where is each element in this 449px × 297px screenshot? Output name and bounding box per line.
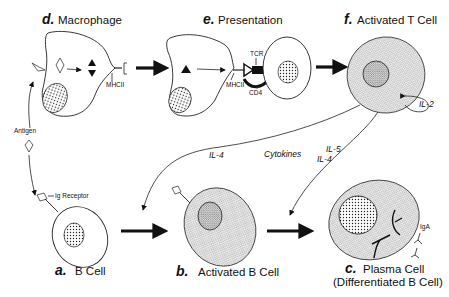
mhcii-receptor-icon xyxy=(124,63,127,74)
plasma-cell-nucleus xyxy=(339,196,377,234)
panel-label-activated-b-cell: Activated B Cell xyxy=(198,266,279,278)
diagram-canvas: d. Macrophage MHCII Antigen e. Presentat… xyxy=(0,0,449,297)
panel-label-presentation: Presentation xyxy=(218,14,283,26)
panel-b-cell: Ig Receptor a. B Cell xyxy=(37,192,118,278)
antigen-to-bcell-arrow xyxy=(29,155,35,195)
tcr-label: TCR xyxy=(250,50,264,57)
panel-label-plasma-cell: Plasma Cell xyxy=(363,263,424,275)
t-cell-nucleus xyxy=(278,61,298,83)
panel-letter-f: f. xyxy=(344,11,353,27)
antigen-outside-icon xyxy=(32,63,45,71)
mhcii-leader-e xyxy=(231,73,234,80)
activated-b-bound-antigen-icon xyxy=(172,186,181,194)
panel-macrophage: d. Macrophage MHCII Antigen xyxy=(14,11,127,195)
antigen-label: Antigen xyxy=(14,127,36,135)
ig-receptor-icon xyxy=(45,199,58,212)
il4-to-c-label: IL-4 xyxy=(317,154,332,164)
cd4-label: CD4 xyxy=(249,89,262,96)
panel-activated-b-cell: b. Activated B Cell xyxy=(171,176,279,279)
panel-letter-b: b. xyxy=(176,263,188,279)
tcr-mhc-complex-icon xyxy=(244,64,253,76)
panel-activated-t-cell: f. Activated T Cell IL-2 xyxy=(338,11,437,122)
antigen-to-macrophage-arrow xyxy=(29,82,33,128)
panel-letter-d: d. xyxy=(42,11,54,27)
ig-receptor-label: Ig Receptor xyxy=(55,192,89,200)
iga-label: IgA xyxy=(420,223,430,231)
il4-to-b-label: IL-4 xyxy=(209,150,224,160)
mhcii-label-d: MHCII xyxy=(106,81,125,88)
panel-letter-a: a. xyxy=(55,262,67,278)
activated-t-cell-nucleus xyxy=(363,61,389,87)
panel-label-activated-t-cell: Activated T Cell xyxy=(357,14,437,26)
panel-presentation: e. Presentation TCR MHCII CD4 xyxy=(165,11,311,116)
activated-b-cell-nucleus xyxy=(198,202,222,230)
panel-sublabel-plasma-cell: (Differentiated B Cell) xyxy=(333,276,443,288)
panel-label-b-cell: B Cell xyxy=(75,265,106,277)
cytokines-label: Cytokines xyxy=(264,149,302,159)
panel-letter-e: e. xyxy=(203,11,215,27)
il5-label: IL-5 xyxy=(326,144,341,154)
panel-letter-c: c. xyxy=(345,260,357,276)
mhcii-label-e: MHCII xyxy=(226,81,245,88)
panel-label-macrophage: Macrophage xyxy=(58,14,122,26)
panel-plasma-cell: IgA c. Plasma Cell (Differentiated B Cel… xyxy=(317,168,442,288)
b-cell-nucleus xyxy=(64,223,84,247)
antigen-icon xyxy=(25,140,33,152)
il2-label: IL-2 xyxy=(419,99,434,109)
